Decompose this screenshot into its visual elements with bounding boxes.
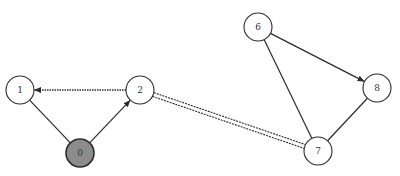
node-label: 6 [255,22,261,32]
graph-canvas: 012678 [0,0,400,176]
node-label: 1 [17,85,23,95]
node-label: 8 [374,83,380,93]
edge-2-7 [153,93,306,149]
node-8[interactable]: 8 [363,74,391,102]
node-label: 2 [137,85,143,95]
edge-6-7 [264,40,312,139]
edge-8-7 [328,98,368,141]
node-1[interactable]: 1 [6,76,34,104]
node-2[interactable]: 2 [126,76,154,104]
node-layer: 012678 [6,13,391,167]
node-6[interactable]: 6 [244,13,272,41]
edge-0-2 [90,100,131,143]
node-0[interactable]: 0 [66,139,94,167]
node-label: 0 [77,148,83,158]
node-7[interactable]: 7 [304,137,332,165]
edge-layer [30,33,368,148]
node-label: 7 [315,146,321,156]
edge-0-1 [30,100,71,143]
edge-6-8 [270,33,364,81]
